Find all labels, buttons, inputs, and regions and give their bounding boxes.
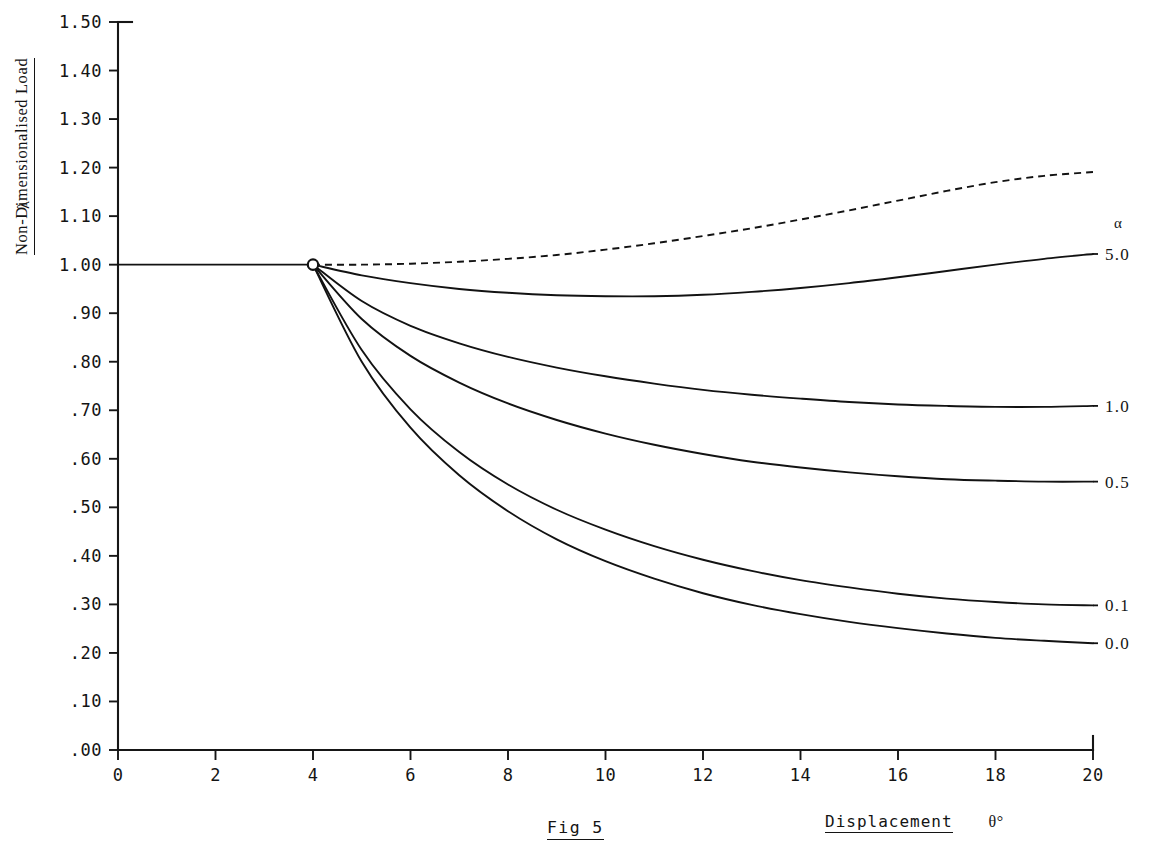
curve-alpha-5.0 — [313, 254, 1093, 296]
y-tick-label: 1.30 — [59, 109, 102, 129]
y-tick-label: 1.00 — [59, 255, 102, 275]
x-tick-label: 16 — [887, 765, 908, 785]
axes — [118, 22, 1093, 750]
y-tick-label: .30 — [70, 594, 102, 614]
y-tick-label: 1.40 — [59, 61, 102, 81]
curve-unstable-dashed-branch — [313, 172, 1093, 265]
series-labels: 5.01.00.50.10.0α — [1105, 215, 1130, 653]
y-tick-label: 1.20 — [59, 158, 102, 178]
x-tick-label: 0 — [113, 765, 124, 785]
series-leader-lines — [1093, 254, 1098, 643]
y-tick-label: .00 — [70, 740, 102, 760]
bifurcation-marker — [308, 259, 318, 269]
x-tick-label: 20 — [1082, 765, 1103, 785]
y-tick-label: .90 — [70, 303, 102, 323]
x-tick-label: 10 — [595, 765, 616, 785]
x-axis-title-wrapper: Displacementθ° — [825, 812, 1004, 831]
curve-alpha-0.1 — [313, 265, 1093, 606]
series-label-alpha-5.0: 5.0 — [1105, 245, 1130, 264]
bifurcation-point — [308, 259, 318, 269]
y-tick-label: .50 — [70, 497, 102, 517]
y-tick-label: .40 — [70, 546, 102, 566]
tick-labels: .00.10.20.30.40.50.60.70.80.901.001.101.… — [59, 12, 1104, 785]
chart-canvas: .00.10.20.30.40.50.60.70.80.901.001.101.… — [0, 0, 1158, 845]
y-axis-title: Non-Dimensionalised Load — [12, 58, 35, 255]
x-axis-title: Displacement — [825, 812, 953, 833]
series-label-alpha-1.0: 1.0 — [1105, 397, 1130, 416]
x-tick-label: 6 — [405, 765, 416, 785]
x-tick-label: 18 — [985, 765, 1006, 785]
y-tick-label: .10 — [70, 691, 102, 711]
tick-marks — [109, 22, 1093, 760]
y-tick-label: .70 — [70, 400, 102, 420]
y-axis-title-wrapper: Non-Dimensionalised Load — [12, 225, 35, 255]
y-tick-label: 1.10 — [59, 206, 102, 226]
data-curves — [118, 172, 1093, 643]
x-tick-label: 14 — [790, 765, 811, 785]
y-tick-label: .80 — [70, 352, 102, 372]
y-tick-label: .20 — [70, 643, 102, 663]
series-label-alpha-0.1: 0.1 — [1105, 596, 1130, 615]
y-tick-label: 1.50 — [59, 12, 102, 32]
series-label-alpha-0.0: 0.0 — [1105, 634, 1130, 653]
x-tick-label: 4 — [308, 765, 319, 785]
figure-caption: Fig 5 — [547, 818, 604, 840]
x-tick-label: 8 — [503, 765, 514, 785]
x-tick-label: 2 — [210, 765, 221, 785]
figure-container: .00.10.20.30.40.50.60.70.80.901.001.101.… — [0, 0, 1158, 845]
y-tick-label: .60 — [70, 449, 102, 469]
x-tick-label: 12 — [692, 765, 713, 785]
x-axis-symbol: θ° — [989, 813, 1004, 831]
series-label-alpha-0.5: 0.5 — [1105, 473, 1130, 492]
legend-header-alpha: α — [1114, 215, 1122, 231]
